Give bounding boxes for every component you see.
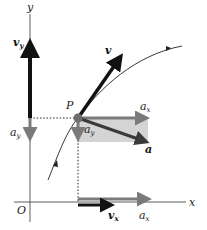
v-arrow (78, 59, 119, 118)
v-label: v (105, 44, 112, 57)
origin-label: O (17, 204, 26, 217)
a-label: a (145, 143, 152, 156)
y-axis-label: y (26, 1, 34, 14)
x-axis-label: x (189, 196, 196, 209)
axes: y x O (14, 1, 196, 222)
ax-label-at-p: ax (140, 100, 151, 114)
point-p-label: P (65, 99, 74, 112)
vx-label: vx (108, 209, 119, 223)
vy-label: vy (13, 36, 24, 50)
point-p (74, 114, 83, 123)
projectile-vector-diagram: y x O vy ay ax ay a v P vx ax (0, 0, 207, 230)
ax-axis-label: ax (139, 209, 150, 223)
ay-axis-label: ay (10, 126, 22, 140)
